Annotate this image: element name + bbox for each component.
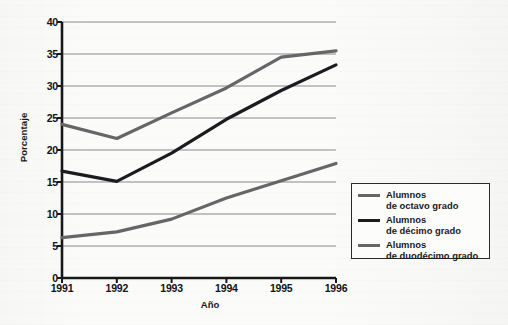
legend-color-swatch [358,194,380,197]
legend-item: Alumnos de duodécimo grado [358,239,489,262]
y-tick-label: 5 [24,240,58,252]
legend-label: Alumnos de duodécimo grado [386,239,478,262]
series-line-2 [62,51,336,139]
legend-label: Alumnos de décimo grado [386,214,461,237]
y-tick-label: 30 [24,80,58,92]
chart-plot-area [0,0,508,325]
y-tick-label: 20 [24,144,58,156]
y-tick-label: 40 [24,16,58,28]
series-line-0 [62,163,336,237]
legend-item: Alumnos de décimo grado [358,214,489,237]
x-tick-label: 1992 [91,282,143,294]
y-tick-label: 10 [24,208,58,220]
y-axis-title: Porcentaje [18,78,29,198]
x-tick-label: 1994 [200,282,252,294]
x-axis-title: Año [150,299,270,310]
y-tick-label: 25 [24,112,58,124]
x-tick-label: 1996 [310,282,362,294]
y-tick-label: 35 [24,48,58,60]
y-axis-tick-labels: 0510152025303540 [0,0,58,325]
series-line-1 [62,65,336,181]
legend-color-swatch [358,219,380,222]
legend-label: Alumnos de octavo grado [386,189,458,212]
x-tick-label: 1991 [36,282,88,294]
legend-item: Alumnos de octavo grado [358,189,489,212]
x-tick-label: 1995 [255,282,307,294]
data-series-lines [62,51,336,238]
chart-legend: Alumnos de octavo gradoAlumnos de décimo… [351,183,490,259]
line-chart-figure: 0510152025303540 19911992199319941995199… [0,0,508,325]
y-tick-label: 15 [24,176,58,188]
legend-color-swatch [358,244,380,247]
x-tick-label: 1993 [146,282,198,294]
